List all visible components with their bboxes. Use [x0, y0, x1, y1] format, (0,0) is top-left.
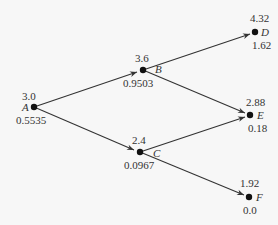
binomial-tree-diagram: 3.0 A 0.5535 3.6 B 0.9503 2.4 C 0.0967 4…: [0, 0, 278, 225]
node-a-bottom-value: 0.5535: [16, 114, 47, 126]
node-b-bottom-value: 0.9503: [123, 77, 154, 89]
node-a-name: A: [21, 101, 29, 113]
edge-a-b: [34, 72, 137, 107]
node-c-name: C: [153, 147, 161, 159]
edge-a-c: [34, 107, 134, 150]
node-f: 1.92 F 0.0: [240, 177, 263, 216]
node-b-top-value: 3.6: [135, 52, 149, 64]
node-c: 2.4 C 0.0967: [124, 134, 161, 171]
node-d-dot: [252, 29, 258, 35]
node-b-dot: [140, 67, 146, 73]
edge-b-e: [143, 70, 245, 113]
node-d-name: D: [260, 26, 269, 38]
node-b: 3.6 B 0.9503: [123, 52, 162, 89]
node-c-dot: [137, 149, 143, 155]
node-c-top-value: 2.4: [132, 134, 146, 146]
node-e-bottom-value: 0.18: [248, 122, 268, 134]
node-f-top-value: 1.92: [240, 177, 259, 189]
node-e-top-value: 2.88: [246, 96, 266, 108]
node-e-name: E: [256, 109, 264, 121]
node-c-bottom-value: 0.0967: [124, 159, 155, 171]
node-f-dot: [246, 194, 252, 200]
node-a-dot: [31, 104, 37, 110]
node-e-dot: [247, 112, 253, 118]
node-d-top-value: 4.32: [250, 12, 269, 24]
node-e: 2.88 E 0.18: [246, 96, 268, 134]
node-f-name: F: [255, 191, 263, 203]
node-b-name: B: [155, 63, 162, 75]
node-f-bottom-value: 0.0: [243, 204, 257, 216]
node-d: 4.32 D 1.62: [250, 12, 271, 51]
node-d-bottom-value: 1.62: [252, 39, 271, 51]
node-a: 3.0 A 0.5535: [16, 90, 47, 126]
